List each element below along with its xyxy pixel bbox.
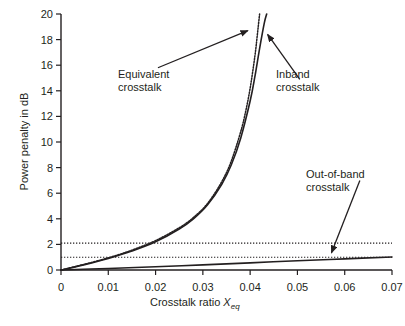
y-tick-label: 20 xyxy=(11,9,53,20)
reference-lines xyxy=(61,243,392,257)
x-tick-label: 0.01 xyxy=(83,282,133,293)
annotation-outofband-line1: Out-of-band xyxy=(306,168,365,181)
annotation-outofband-line2: crosstalk xyxy=(306,181,365,194)
y-tick-label: 16 xyxy=(11,60,53,71)
annotation-equivalent-line1: Equivalent xyxy=(118,68,169,81)
arrow-equivalent-crosstalk xyxy=(158,31,248,68)
x-tick-label: 0.05 xyxy=(272,282,322,293)
x-axis-ticks xyxy=(61,270,392,275)
crosstalk-power-penalty-chart xyxy=(0,0,405,326)
curve-inband-crosstalk xyxy=(61,14,267,270)
y-tick-label: 4 xyxy=(11,214,53,225)
y-tick-label: 2 xyxy=(11,239,53,250)
x-tick-label: 0.03 xyxy=(178,282,228,293)
annotation-inband-crosstalk: Inband crosstalk xyxy=(276,68,319,94)
y-tick-label: 0 xyxy=(11,265,53,276)
x-tick-label: 0.04 xyxy=(225,282,275,293)
x-axis-title: Crosstalk ratio Xeq xyxy=(150,296,240,313)
x-tick-label: 0.06 xyxy=(320,282,370,293)
y-tick-label: 18 xyxy=(11,35,53,46)
annotation-equivalent-line2: crosstalk xyxy=(118,81,169,94)
axes-group xyxy=(61,14,392,270)
curve-out-of-band-crosstalk xyxy=(61,257,392,270)
curve-equivalent-crosstalk xyxy=(61,14,260,270)
x-tick-label: 0 xyxy=(36,282,86,293)
annotation-equivalent-crosstalk: Equivalent crosstalk xyxy=(118,68,169,94)
y-axis-title: Power penalty in dB xyxy=(19,62,30,222)
data-curves xyxy=(61,14,392,270)
annotation-arrows xyxy=(158,31,360,253)
annotation-out-of-band-crosstalk: Out-of-band crosstalk xyxy=(306,168,365,194)
y-axis-ticks xyxy=(56,14,61,270)
annotation-inband-line2: crosstalk xyxy=(276,81,319,94)
x-tick-label: 0.07 xyxy=(367,282,405,293)
annotation-inband-line1: Inband xyxy=(276,68,319,81)
x-tick-label: 0.02 xyxy=(131,282,181,293)
figure-container: 02468101214161820 00.010.020.030.040.050… xyxy=(0,0,405,326)
